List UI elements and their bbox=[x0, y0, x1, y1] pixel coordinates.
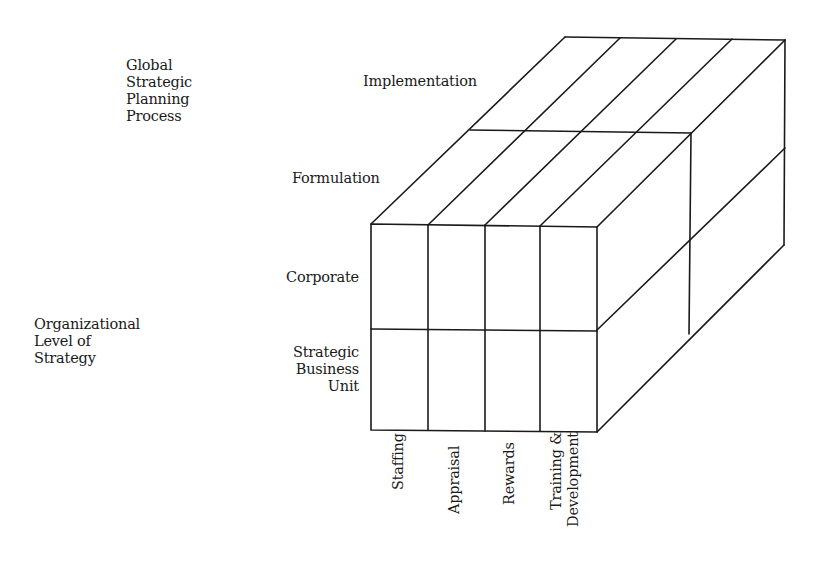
function-rewards-line: Rewards bbox=[501, 442, 518, 505]
function-training-line: Training & bbox=[548, 432, 565, 527]
function-training-development: Training & Development bbox=[548, 432, 582, 527]
front-face-outline bbox=[371, 224, 597, 432]
right-back-vertical bbox=[784, 40, 785, 245]
three-dimensional-matrix-cube bbox=[0, 0, 818, 565]
function-staffing: Staffing bbox=[390, 433, 407, 490]
function-development-line: Development bbox=[565, 432, 582, 527]
right-bottom-edge bbox=[597, 245, 784, 432]
function-appraisal: Appraisal bbox=[446, 446, 463, 514]
right-middle-vertical bbox=[689, 133, 691, 334]
front-row-divider bbox=[371, 329, 597, 331]
function-rewards: Rewards bbox=[501, 442, 518, 505]
function-appraisal-line: Appraisal bbox=[446, 446, 463, 514]
function-staffing-line: Staffing bbox=[390, 433, 407, 490]
